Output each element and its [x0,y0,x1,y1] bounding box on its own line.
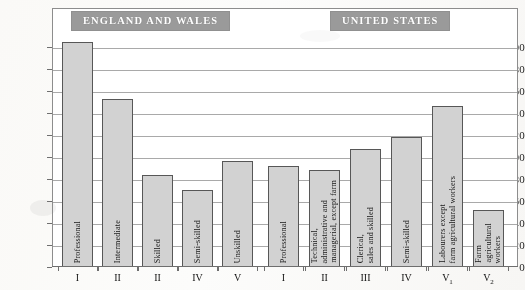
bar[interactable]: Technical,administrative andmanagerial, … [309,170,340,267]
x-category-label: II [102,272,133,283]
x-category-label: IV [391,272,422,283]
bar-label: Professional [279,219,288,263]
x-tick-mark [426,267,427,271]
x-category-label: V1 [432,272,463,286]
bar[interactable]: Professional [62,42,93,268]
x-tick-mark [58,267,59,271]
bar[interactable]: Farmagriculturalworkers [473,210,504,267]
bar-label-wrap: Unskilled [223,161,252,263]
bar-label: administrative and [320,198,329,263]
x-axis-line [52,266,518,267]
bar[interactable]: Semi-skilled [391,137,422,267]
x-tick-mark [218,267,219,271]
x-tick-mark [303,267,304,271]
bar-label-wrap: Farmagriculturalworkers [474,210,503,263]
bar-label: Skilled [153,237,162,263]
bar[interactable]: Semi-skilled [182,190,213,267]
bar-label: farm agricultural workers [448,174,457,263]
x-tick-mark [469,267,470,271]
bar-label: workers [493,234,502,263]
bar-label-wrap: Semi-skilled [392,137,421,263]
y-tick-mark [47,267,52,268]
bar-label: Labourers except [438,202,447,263]
bar-label: Clerical, [356,232,365,263]
bar-label-wrap: Technical,administrative andmanagerial, … [310,170,339,263]
bar[interactable]: Unskilled [222,161,253,267]
bar-label: sales and skilled [366,205,375,263]
x-tick-mark [508,267,509,271]
bar-label: Farm [474,243,483,263]
bar-label: Professional [73,219,82,263]
x-category-label: II [309,272,340,283]
bar[interactable]: Skilled [142,175,173,267]
x-tick-mark [428,267,429,271]
bar-label: Unskilled [233,228,242,263]
bar-label: Technical, [310,226,319,263]
bar-label-wrap: Skilled [143,175,172,263]
banner-england-and-wales: ENGLAND AND WALES [71,11,230,31]
bar-label-wrap: Professional [63,42,92,264]
x-tick-mark [385,267,386,271]
x-tick-mark [346,267,347,271]
bar[interactable]: Labourers exceptfarm agricultural worker… [432,106,463,267]
bar-label: Semi-skilled [402,218,411,263]
bar-label-wrap: Professional [269,166,298,263]
bar-label-wrap: Clerical,sales and skilled [351,149,380,263]
x-category-label: II [142,272,173,283]
x-tick-mark [305,267,306,271]
bar-label: managerial, except farm [329,178,338,263]
banner-united-states: UNITED STATES [330,11,450,31]
x-tick-mark [467,267,468,271]
bar[interactable]: Intermediate [102,99,133,267]
bar[interactable]: Clerical,sales and skilled [350,149,381,267]
bar-label-wrap: Semi-skilled [183,190,212,263]
x-category-label: I [62,272,93,283]
bar-label: Semi-skilled [193,218,202,263]
x-tick-mark [178,267,179,271]
x-tick-mark [98,267,99,271]
chart-root: 020406080100120140160180200 Professional… [0,0,525,290]
x-category-label: I [268,272,299,283]
x-tick-mark [387,267,388,271]
x-tick-mark [344,267,345,271]
bar-label-wrap: Intermediate [103,99,132,263]
x-category-label: IV [182,272,213,283]
x-tick-mark [257,267,258,271]
x-tick-mark [264,267,265,271]
bar[interactable]: Professional [268,166,299,267]
bar-label: agricultural [484,221,493,263]
x-category-label: V2 [473,272,504,286]
x-category-label: III [350,272,381,283]
x-category-label: V [222,272,253,283]
bar-series: ProfessionalIntermediateSkilledSemi-skil… [53,9,517,267]
x-tick-mark [138,267,139,271]
bar-label-wrap: Labourers exceptfarm agricultural worker… [433,106,462,263]
bar-label: Intermediate [113,218,122,263]
